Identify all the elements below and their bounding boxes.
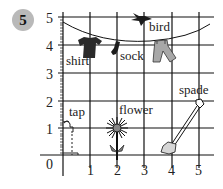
tap-label: tap (69, 104, 85, 119)
coordinate-grid-diagram: 5 4 3 2 1 0 1 2 3 4 5 shirt sock bird (0, 0, 223, 189)
x-tick-4: 4 (168, 163, 175, 178)
tap-icon (63, 121, 78, 155)
bird-label: bird (149, 19, 170, 34)
y-tick-labels: 5 4 3 2 1 (46, 11, 53, 137)
x-tick-2: 2 (114, 163, 121, 178)
x-tick-3: 3 (141, 163, 148, 178)
x-tick-1: 1 (87, 163, 94, 178)
y-tick-4: 4 (46, 39, 53, 54)
sock-label: sock (120, 48, 144, 63)
y-tick-1: 1 (46, 122, 53, 137)
x-tick-labels: 0 1 2 3 4 5 (46, 157, 202, 178)
spade-icon (161, 99, 204, 154)
sock-icon (111, 41, 120, 55)
flower-icon (106, 117, 128, 160)
y-tick-3: 3 (46, 67, 53, 82)
flower-label: flower (119, 102, 154, 117)
x-tick-5: 5 (195, 163, 202, 178)
spade-label: spade (179, 82, 209, 97)
y-tick-5: 5 (46, 11, 53, 26)
shirt-label: shirt (66, 53, 90, 68)
origin-label: 0 (46, 157, 53, 172)
y-tick-2: 2 (46, 95, 53, 110)
